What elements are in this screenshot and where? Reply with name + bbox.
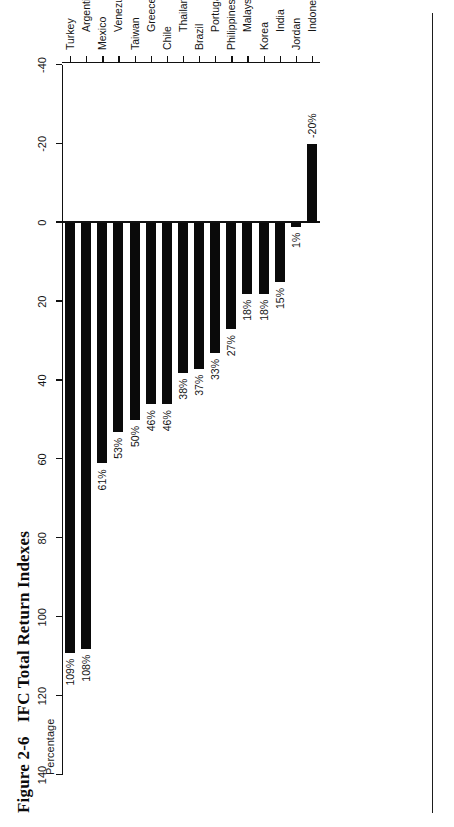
bar [275, 223, 285, 282]
bar-value-label: 50% [129, 426, 141, 447]
value-axis-tick-label: 120 [36, 687, 48, 705]
bar-value-label: 46% [161, 410, 173, 431]
value-axis-tick [56, 458, 62, 459]
category-axis-label: Greece [145, 0, 157, 32]
category-axis-label: Indonesia [306, 0, 318, 32]
category-axis-tick [280, 56, 281, 63]
category-axis-line [62, 62, 320, 63]
plot-area: 140120100806040200-20-40 109%108%61%53%5… [62, 65, 320, 775]
value-axis-tick-label: 0 [36, 220, 48, 226]
category-axis-label: India [274, 9, 286, 32]
figure-page: Figure 2-6IFC Total Return Indexes Perce… [0, 0, 454, 827]
category-axis-tick [86, 56, 87, 63]
category-axis-tick [247, 56, 248, 63]
value-axis-tick [56, 143, 62, 144]
value-axis-tick-label: -40 [36, 57, 48, 73]
bar [178, 223, 188, 373]
bar [162, 223, 172, 404]
category-axis-tick [199, 56, 200, 63]
bar-value-label: 15% [274, 288, 286, 309]
category-axis-label: Philippines [225, 0, 237, 50]
value-axis-tick [56, 300, 62, 301]
bar-value-label: 37% [193, 375, 205, 396]
bar [226, 223, 236, 330]
value-axis-tick-label: 80 [36, 532, 48, 544]
category-axis-label: Taiwan [129, 17, 141, 50]
bar-value-label: -20% [306, 113, 318, 138]
bar [65, 223, 75, 653]
bar [259, 223, 269, 294]
value-axis-tick-label: 60 [36, 453, 48, 465]
bar [194, 223, 204, 369]
bar-value-label: 61% [96, 469, 108, 490]
value-axis-tick [56, 379, 62, 380]
rotated-figure-stage: Figure 2-6IFC Total Return Indexes Perce… [0, 0, 454, 827]
bar [81, 223, 91, 649]
category-axis-label: Venezuela [112, 0, 124, 32]
category-axis-tick [215, 56, 216, 63]
bar-value-label: 109% [64, 659, 76, 686]
value-axis-tick-label: -20 [36, 136, 48, 152]
category-axis-label: Argentina [80, 0, 92, 32]
bar-value-label: 1% [290, 233, 302, 248]
category-axis-tick [167, 56, 168, 63]
value-axis-tick-label: 140 [36, 766, 48, 784]
figure-number: Figure 2-6 [14, 736, 33, 813]
value-axis-tick [56, 774, 62, 775]
category-axis-label: Malaysia [241, 0, 253, 32]
bar [146, 223, 156, 404]
category-axis-label: Turkey [64, 18, 76, 50]
category-axis-tick [312, 56, 313, 63]
category-axis-tick [264, 56, 265, 63]
category-axis-label: Jordan [290, 18, 302, 50]
bar-value-label: 27% [225, 335, 237, 356]
category-axis-tick [70, 56, 71, 63]
category-axis-label: Portugal [209, 0, 221, 32]
value-axis-tick-label: 100 [36, 608, 48, 626]
bar [307, 144, 317, 223]
category-axis-label: Chile [161, 26, 173, 50]
bar [291, 223, 301, 227]
category-axis-label: Mexico [96, 17, 108, 50]
category-axis-tick [231, 56, 232, 63]
value-axis-tick-label: 40 [36, 374, 48, 386]
category-axis-tick [135, 56, 136, 63]
value-axis-tick [56, 616, 62, 617]
category-axis-label: Brazil [193, 24, 205, 50]
bar-value-label: 108% [80, 655, 92, 682]
value-axis-tick-label: 20 [36, 296, 48, 308]
value-axis-tick [56, 695, 62, 696]
bar [97, 223, 107, 464]
value-axis-tick [56, 537, 62, 538]
bar [130, 223, 140, 420]
category-axis-label: Thailand [177, 0, 189, 32]
category-axis-tick [118, 56, 119, 63]
bar-value-label: 53% [112, 438, 124, 459]
figure-caption: Figure 2-6IFC Total Return Indexes [14, 531, 34, 813]
bar [113, 223, 123, 432]
bar [210, 223, 220, 353]
category-axis-tick [296, 56, 297, 63]
category-axis-label: Korea [258, 22, 270, 50]
bar [242, 223, 252, 294]
bar-value-label: 18% [258, 300, 270, 321]
category-axis-tick [183, 56, 184, 63]
category-axis-tick [102, 56, 103, 63]
value-axis-tick [56, 64, 62, 65]
bar-value-label: 18% [241, 300, 253, 321]
category-axis: TurkeyArgentinaMexicoVenezuelaTaiwanGree… [62, 0, 320, 63]
bar-value-label: 33% [209, 359, 221, 380]
category-axis-tick [151, 56, 152, 63]
bar-value-label: 38% [177, 379, 189, 400]
figure-bottom-rule [432, 13, 433, 813]
bar-value-label: 46% [145, 410, 157, 431]
figure-title-text: IFC Total Return Indexes [14, 531, 33, 722]
